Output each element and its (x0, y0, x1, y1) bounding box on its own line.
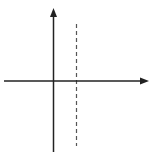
hyperbola-graph (0, 0, 153, 154)
y-axis-arrow-icon (50, 8, 57, 17)
x-axis-arrow-icon (140, 78, 149, 85)
